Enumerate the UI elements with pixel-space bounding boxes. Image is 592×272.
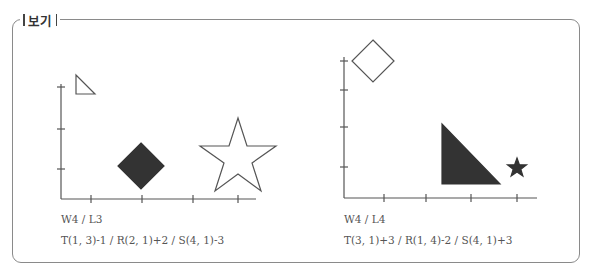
- diamond-shape: [118, 143, 164, 189]
- left-panel: [57, 75, 276, 203]
- left-transform-label: T(1, 3)-1 / R(2, 1)+2 / S(4, 1)-3: [61, 234, 224, 246]
- star-shape: [200, 118, 276, 191]
- left-grid-label: W4 / L3: [61, 213, 102, 225]
- right-panel: [340, 40, 537, 202]
- right-grid-label: W4 / L4: [344, 213, 385, 225]
- diagram-canvas: [0, 0, 592, 272]
- triangle-shape: [76, 75, 95, 94]
- star-shape: [508, 158, 527, 176]
- left-axes: [57, 84, 256, 203]
- right-transform-label: T(3, 1)+3 / R(1, 4)-2 / S(4, 1)+3: [344, 234, 512, 246]
- diamond-shape: [352, 40, 394, 82]
- triangle-shape: [442, 124, 500, 184]
